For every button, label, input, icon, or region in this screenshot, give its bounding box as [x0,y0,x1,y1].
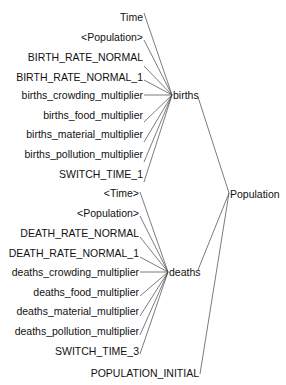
node-switch-time-3[interactable]: SWITCH_TIME_3 [55,345,139,357]
node-births-material-multiplier[interactable]: births_material_multiplier [26,128,143,140]
node-switch-time-1[interactable]: SWITCH_TIME_1 [59,168,143,180]
node-deaths-pollution-multiplier[interactable]: deaths_pollution_multiplier [15,325,140,337]
node-time[interactable]: Time [120,11,143,23]
node-deaths-crowding-multiplier[interactable]: deaths_crowding_multiplier [12,266,140,278]
node-birth-rate-normal[interactable]: BIRTH_RATE_NORMAL [28,51,143,63]
population-input-edges [198,97,229,374]
node-population-shadow[interactable]: <Population> [81,31,143,43]
node-births-pollution-multiplier[interactable]: births_pollution_multiplier [25,148,144,160]
node-deaths[interactable]: deaths [169,266,201,278]
deaths-input-edges [140,192,168,354]
node-population-shadow-2[interactable]: <Population> [77,207,139,219]
node-deaths-food-multiplier[interactable]: deaths_food_multiplier [33,286,139,298]
births-input-edges [144,13,172,182]
node-births-food-multiplier[interactable]: births_food_multiplier [43,109,143,121]
node-birth-rate-normal-1[interactable]: BIRTH_RATE_NORMAL_1 [16,71,143,83]
node-death-rate-normal[interactable]: DEATH_RATE_NORMAL [20,227,139,239]
node-population-root[interactable]: Population [230,188,280,200]
causes-tree-diagram: Time <Population> BIRTH_RATE_NORMAL BIRT… [0,0,286,385]
node-births-crowding-multiplier[interactable]: births_crowding_multiplier [22,89,144,101]
node-deaths-material-multiplier[interactable]: deaths_material_multiplier [16,305,139,317]
node-births[interactable]: births [173,89,199,101]
node-death-rate-normal-1[interactable]: DEATH_RATE_NORMAL_1 [9,247,139,259]
node-time-shadow[interactable]: <Time> [104,187,139,199]
node-population-initial[interactable]: POPULATION_INITIAL [91,367,199,379]
